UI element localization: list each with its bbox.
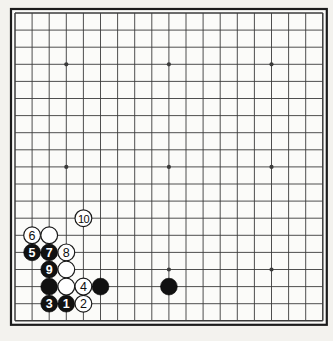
- go-stone-white-10[interactable]: 10: [75, 210, 92, 227]
- go-stone-white[interactable]: [41, 227, 58, 244]
- go-stone-black[interactable]: [92, 278, 109, 295]
- go-stone-white-6[interactable]: 6: [24, 227, 41, 244]
- stone-move-number: 4: [80, 280, 87, 294]
- star-point: [269, 62, 273, 66]
- stone-move-number: 9: [46, 263, 53, 277]
- star-point: [167, 165, 171, 169]
- star-point: [64, 62, 68, 66]
- stone-move-number: 5: [29, 246, 36, 260]
- go-stone-white[interactable]: [58, 278, 75, 295]
- goban-canvas: 10657894312: [0, 0, 333, 341]
- go-board-diagram: 10657894312: [0, 0, 333, 341]
- stone-move-number: 7: [46, 246, 53, 260]
- stone-move-number: 2: [80, 297, 87, 311]
- stone-disc: [41, 278, 58, 295]
- stone-disc: [92, 278, 109, 295]
- stone-disc: [58, 261, 75, 278]
- go-stone-white-4[interactable]: 4: [75, 278, 92, 295]
- stone-disc: [41, 227, 58, 244]
- go-stone-black-3[interactable]: 3: [41, 295, 58, 312]
- stone-move-number: 6: [29, 229, 36, 243]
- go-stone-white-2[interactable]: 2: [75, 295, 92, 312]
- star-point: [269, 267, 273, 271]
- star-point: [64, 165, 68, 169]
- go-stone-black-1[interactable]: 1: [58, 295, 75, 312]
- star-point: [167, 267, 171, 271]
- stone-move-number: 1: [63, 297, 70, 311]
- go-stone-black[interactable]: [41, 278, 58, 295]
- stone-disc: [161, 278, 178, 295]
- stone-move-number: 10: [78, 213, 90, 225]
- go-stone-black-9[interactable]: 9: [41, 261, 58, 278]
- star-point: [269, 165, 273, 169]
- stone-move-number: 8: [63, 246, 70, 260]
- go-stone-black-5[interactable]: 5: [24, 244, 41, 261]
- stone-disc: [58, 278, 75, 295]
- go-stone-black[interactable]: [161, 278, 178, 295]
- go-stone-white[interactable]: [58, 261, 75, 278]
- star-point: [167, 62, 171, 66]
- go-stone-black-7[interactable]: 7: [41, 244, 58, 261]
- go-stone-white-8[interactable]: 8: [58, 244, 75, 261]
- stone-move-number: 3: [46, 297, 53, 311]
